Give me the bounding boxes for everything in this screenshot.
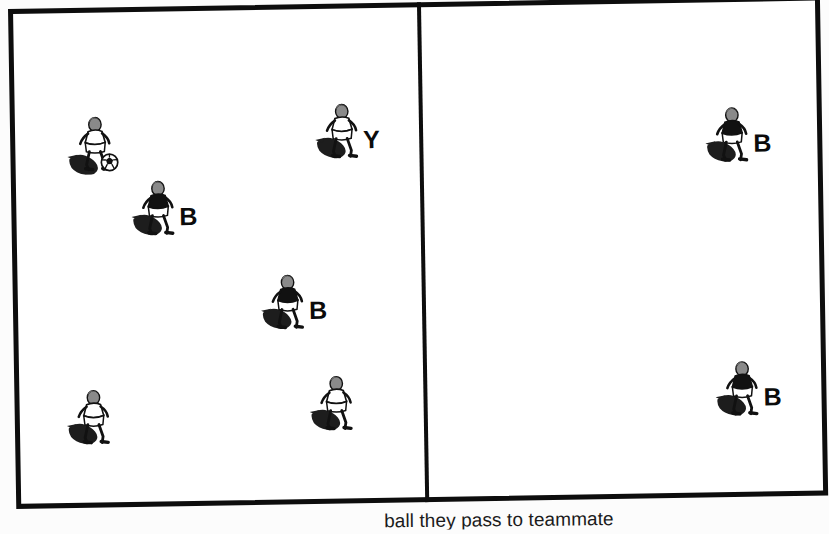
player-lower-center: [309, 373, 362, 432]
soccer-player-icon: [715, 358, 768, 417]
player-b-upper-right-grid: B: [705, 105, 758, 164]
player-lower-left: [66, 387, 119, 446]
soccer-drill-diagram: B Y: [8, 0, 828, 526]
left-grid: B Y: [8, 2, 425, 509]
soccer-player-icon: [705, 105, 758, 164]
soccer-player-icon: [131, 178, 184, 237]
player-team-label: B: [309, 298, 327, 323]
right-grid: B B: [421, 0, 828, 502]
player-team-label: Y: [363, 127, 380, 152]
soccer-player-dribbling-icon: [65, 112, 140, 175]
player-y-upper-right: Y: [315, 101, 368, 160]
player-team-label: B: [179, 204, 197, 229]
soccer-ball-icon: [101, 154, 118, 171]
player-b-upper-left: B: [131, 178, 184, 237]
soccer-player-icon: [309, 373, 362, 432]
soccer-player-icon: [66, 387, 119, 446]
soccer-player-icon: [315, 101, 368, 160]
player-b-center: B: [260, 272, 313, 331]
soccer-player-icon: [260, 272, 313, 331]
player-b-lower-right-grid: B: [715, 358, 768, 417]
player-shadow: [67, 155, 98, 176]
player-team-label: B: [753, 130, 771, 155]
player-team-label: B: [763, 384, 781, 409]
player-with-ball: [65, 112, 140, 171]
